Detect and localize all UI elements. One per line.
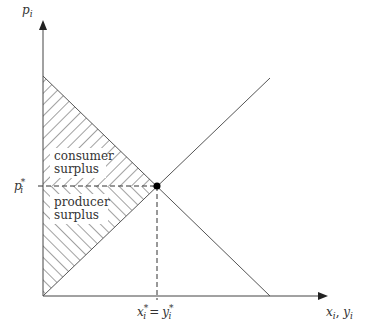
supply-demand-diagram: pi p*i consumer surplus producer surplus… [0, 0, 368, 329]
consumer-surplus-label-1: consumer [54, 149, 114, 163]
producer-surplus-label-2: surplus [54, 208, 99, 222]
y-axis-arrow-icon [39, 20, 47, 30]
price-label: p*i [14, 177, 26, 195]
consumer-surplus-label-2: surplus [54, 162, 99, 176]
quantity-label: x*i=y*i [137, 303, 174, 321]
y-axis-label: pi [22, 3, 33, 19]
equilibrium-point [154, 183, 161, 190]
producer-surplus-label-1: producer [54, 195, 110, 209]
x-axis-arrow-icon [318, 292, 328, 300]
x-axis-label: xi, yi [326, 305, 353, 321]
